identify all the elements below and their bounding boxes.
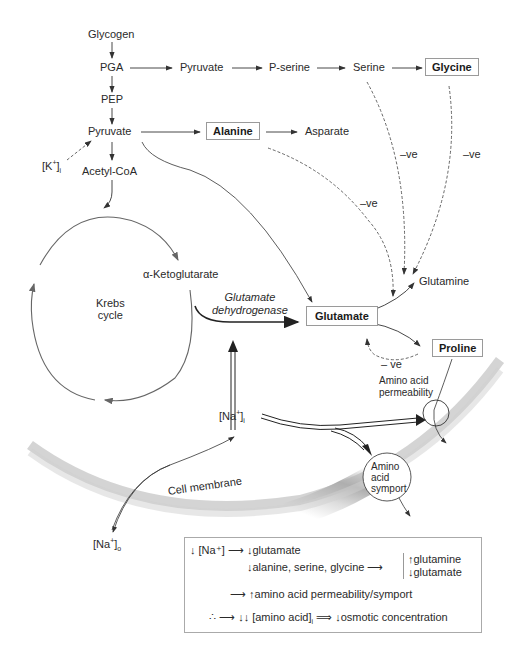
node-pyruvate: Pyruvate xyxy=(88,125,131,137)
node-pyruvate-top: Pyruvate xyxy=(180,61,223,73)
krebs-cycle-label: Krebs cycle xyxy=(96,297,125,321)
node-asparate: Asparate xyxy=(305,125,349,137)
amino-acid-permeability-label: Amino acid permeability xyxy=(379,375,433,399)
node-glycogen: Glycogen xyxy=(88,28,134,40)
inhibition-label-3: –ve xyxy=(360,197,378,209)
node-na-extracellular: [Na+]o xyxy=(93,537,121,552)
node-na-intracellular: [Na+]i xyxy=(219,409,245,424)
legend-row-3: ⟶ ↑amino acid permeability/symport xyxy=(230,588,412,601)
inhibition-label-2: –ve xyxy=(463,148,481,160)
legend-row-1: ↓ [Na⁺] ⟶ ↓glutamate xyxy=(190,544,301,557)
amino-acid-symport-label: Amino acid symport xyxy=(371,461,407,494)
node-glutamate: Glutamate xyxy=(306,306,378,326)
node-p-serine: P-serine xyxy=(269,61,310,73)
node-pga: PGA xyxy=(100,61,123,73)
summary-legend-box: ↓ [Na⁺] ⟶ ↓glutamate ↓alanine, serine, g… xyxy=(184,537,482,633)
node-k-intracellular: [K+]i xyxy=(42,159,61,174)
inhibition-label-4: – ve xyxy=(381,358,402,370)
legend-row-2: ↓alanine, serine, glycine ⟶ xyxy=(247,561,383,574)
node-glycine: Glycine xyxy=(425,58,479,76)
inhibition-label-1: –ve xyxy=(400,148,418,160)
node-serine: Serine xyxy=(353,61,385,73)
legend-row-2-results: ↑glutamine ↓glutamate xyxy=(403,553,462,579)
node-alpha-ketoglutarate: α-Ketoglutarate xyxy=(143,268,218,280)
node-acetyl-coa: Acetyl-CoA xyxy=(82,165,137,177)
node-alanine: Alanine xyxy=(206,122,260,140)
node-pep: PEP xyxy=(101,93,123,105)
enzyme-glutamate-dehydrogenase: Glutamate dehydrogenase xyxy=(212,291,288,317)
legend-row-4: ∴ ⟶ ↓↓ [amino acid]i ⟹ ↓osmotic concentr… xyxy=(209,611,448,625)
node-glutamine: Glutamine xyxy=(419,275,469,287)
node-proline: Proline xyxy=(432,339,483,357)
